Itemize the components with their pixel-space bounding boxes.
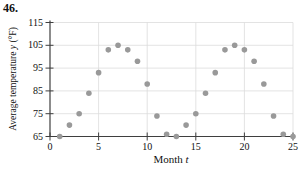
x-axis-variable: t: [186, 153, 189, 165]
data-point: [125, 47, 131, 53]
x-tick-label: 25: [288, 142, 298, 152]
x-axis-label: Month t: [153, 153, 188, 165]
data-point: [144, 81, 150, 87]
textbook-figure: 46. Average temperature y (°F) Month t 6…: [0, 0, 306, 175]
data-point: [251, 58, 257, 64]
x-axis-label-text: Month: [153, 153, 185, 165]
plot-area: [0, 0, 306, 175]
y-tick-label: 75: [13, 109, 43, 119]
data-point: [76, 111, 82, 117]
x-tick-label: 15: [191, 142, 201, 152]
y-tick-label: 105: [13, 40, 43, 50]
data-point: [154, 113, 160, 119]
data-point: [86, 90, 92, 96]
data-point: [106, 47, 112, 53]
data-point: [261, 81, 267, 87]
data-point: [164, 131, 170, 137]
data-point: [290, 134, 296, 140]
y-tick-label: 115: [13, 18, 43, 28]
x-tick-label: 0: [48, 142, 53, 152]
data-point: [271, 113, 277, 119]
data-point: [232, 43, 238, 49]
data-point: [135, 58, 141, 64]
data-point: [222, 47, 228, 53]
data-point: [193, 111, 199, 117]
y-tick-label: 65: [13, 132, 43, 142]
temperature-scatter-chart: Average temperature y (°F) Month t 65758…: [0, 0, 306, 175]
x-tick-label: 20: [239, 142, 249, 152]
data-point: [242, 47, 248, 53]
data-point: [183, 122, 189, 128]
data-point: [203, 90, 209, 96]
x-tick-label: 5: [96, 142, 101, 152]
data-point: [57, 134, 63, 140]
data-point: [212, 70, 218, 76]
data-point: [96, 70, 102, 76]
data-point: [174, 134, 180, 140]
y-tick-label: 95: [13, 63, 43, 73]
data-point: [280, 131, 286, 137]
y-tick-label: 85: [13, 86, 43, 96]
data-point: [67, 122, 73, 128]
data-point: [115, 43, 121, 49]
x-tick-label: 10: [142, 142, 152, 152]
